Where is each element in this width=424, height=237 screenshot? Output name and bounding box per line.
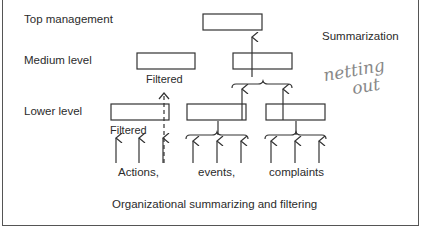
box-top-management [203,14,262,30]
box-lower-middle [187,104,246,120]
box-lower-left [111,104,169,120]
diagram-graphics [0,0,424,237]
box-medium-right [233,53,292,69]
box-lower-right [266,104,325,120]
box-medium-left [137,53,195,69]
